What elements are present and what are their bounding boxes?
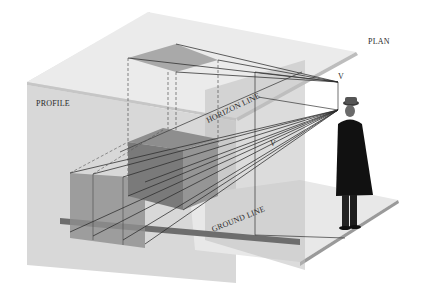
label-vanishing-point-mid: V <box>270 139 276 148</box>
cube-object <box>128 128 218 210</box>
perspective-diagram: PLAN PROFILE HORIZON LINE GROUND LINE V … <box>0 0 444 285</box>
label-profile: PROFILE <box>36 99 70 108</box>
label-vanishing-point-top: V <box>338 72 344 81</box>
label-plan: PLAN <box>368 37 390 46</box>
